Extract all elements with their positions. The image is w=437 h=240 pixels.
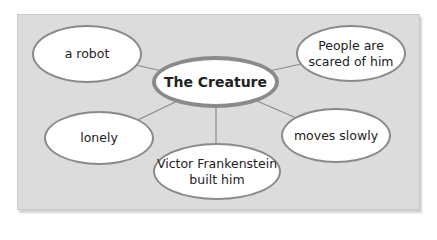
- node-label: moves slowly: [294, 128, 378, 144]
- node-a-robot: a robot: [32, 25, 142, 83]
- node-lonely: lonely: [44, 111, 154, 165]
- node-moves-slowly: moves slowly: [281, 108, 391, 163]
- node-victor-frankenstein: Victor Frankenstein built him: [153, 143, 281, 200]
- node-label-line-2: scared of him: [308, 54, 393, 70]
- node-label: a robot: [65, 46, 110, 62]
- node-label-line-1: Victor Frankenstein: [157, 156, 277, 172]
- node-center-the-creature: The Creature: [152, 56, 279, 108]
- center-label: The Creature: [164, 74, 267, 90]
- node-label-line-1: People are: [308, 38, 393, 54]
- node-label-line-2: built him: [157, 172, 277, 188]
- node-label: lonely: [80, 130, 118, 146]
- node-people-are-scared: People are scared of him: [296, 25, 406, 82]
